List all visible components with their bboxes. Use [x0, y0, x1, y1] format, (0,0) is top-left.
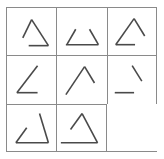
matrix-cell-r3c2[interactable] [56, 104, 106, 152]
cell-r1c2-left-diagonal [67, 29, 76, 44]
cell-r3c2-right-diagonal [82, 113, 97, 142]
cell-r3c2-figure [57, 105, 105, 151]
cell-r1c2-figure [57, 8, 106, 55]
cell-r2c2-left-diagonal [66, 67, 85, 95]
matrix-cell-r2c3[interactable] [107, 55, 157, 103]
matrix-cell-r2c2[interactable] [56, 55, 106, 103]
matrix-puzzle-root [0, 0, 164, 159]
matrix-cell-r1c3[interactable] [107, 7, 157, 55]
cell-r3c1-figure [7, 105, 56, 151]
cell-r1c3-figure [108, 8, 156, 55]
matrix-cell-r1c2[interactable] [56, 7, 106, 55]
matrix-cell-r2c1[interactable] [6, 55, 56, 103]
cell-r2c3-right-diagonal [132, 66, 142, 81]
matrix-row-3 [6, 104, 157, 152]
matrix-grid [6, 7, 157, 152]
cell-r1c1-right-diagonal [32, 20, 49, 46]
matrix-cell-r3c3-blank[interactable] [107, 104, 157, 152]
matrix-cell-r1c1[interactable] [6, 7, 56, 55]
matrix-row-2 [6, 55, 157, 103]
cell-r1c3-left-diagonal [115, 19, 133, 45]
cell-r3c1-right-diagonal [40, 113, 49, 142]
cell-r3c1-left-diagonal [16, 127, 27, 142]
cell-r2c2-figure [57, 56, 106, 103]
cell-r1c1-left-diagonal [23, 20, 32, 38]
cell-r2c1-figure [7, 56, 56, 103]
matrix-cell-r3c1[interactable] [6, 104, 56, 152]
cell-r1c1-figure [7, 8, 56, 55]
cell-r1c2-right-diagonal [90, 29, 99, 44]
cell-r2c1-left-diagonal [17, 66, 38, 93]
cell-r3c2-left-diagonal [71, 113, 83, 129]
cell-r2c3-figure [108, 56, 156, 103]
cell-r1c3-right-diagonal [134, 19, 145, 36]
cell-r2c2-right-diagonal [85, 67, 95, 83]
matrix-row-1 [6, 7, 157, 55]
